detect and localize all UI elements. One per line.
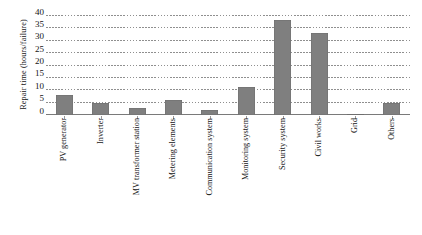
x-label-slot: Communication system [192,116,228,228]
x-tick-label: Others [388,118,397,140]
y-tick-label: 10 [35,81,44,90]
plot-area [46,16,410,115]
bar [129,108,146,115]
y-tick-label: 0 [40,106,45,115]
y-tick-label: 40 [35,7,44,16]
x-tick-label: Civil works [315,118,324,156]
bar [56,95,73,115]
bar-slot [119,16,155,115]
x-axis-tick-labels: PV generatorInverterMV transformer stati… [46,116,410,228]
x-label-slot: Inverter [82,116,118,228]
x-tick-label: MV transformer station [133,118,142,195]
bar [165,100,182,115]
x-label-slot: Civil works [301,116,337,228]
bar-series [46,16,410,115]
x-tick-label: Metering elements [169,118,178,179]
bar-slot [46,16,82,115]
bar-slot [82,16,118,115]
bar [274,20,291,115]
bar-slot [374,16,410,115]
bar-slot [228,16,264,115]
x-label-slot: Metering elements [155,116,191,228]
bar [201,110,218,115]
x-label-slot: Security system [264,116,300,228]
bar [238,87,255,115]
bar-slot [155,16,191,115]
x-tick-label: PV generator [60,118,69,161]
bar [347,114,364,115]
x-tick-label: Security system [278,118,287,170]
x-tick-label: Grid [351,118,360,133]
bar-slot [337,16,373,115]
x-tick-label: Inverter [96,118,105,144]
bar [92,103,109,115]
x-label-slot: Others [374,116,410,228]
x-tick-label: Communication system [206,118,215,196]
x-label-slot: Grid [337,116,373,228]
x-label-slot: Monitoring system [228,116,264,228]
y-tick-label: 20 [35,57,44,66]
y-tick-label: 25 [35,44,44,53]
bar-slot [264,16,300,115]
y-tick-label: 15 [35,69,44,78]
x-label-slot: PV generator [46,116,82,228]
bar [383,103,400,115]
y-tick-label: 5 [40,94,45,103]
bar-slot [301,16,337,115]
x-label-slot: MV transformer station [119,116,155,228]
bar-slot [192,16,228,115]
bar [311,33,328,115]
x-tick-label: Monitoring system [242,118,251,180]
y-tick-label: 30 [35,32,44,41]
y-axis-tick-labels: 0510152025303540 [20,16,44,115]
y-tick-label: 35 [35,19,44,28]
bar-chart-figure: Repair time (hours/failure) 051015202530… [0,0,422,235]
